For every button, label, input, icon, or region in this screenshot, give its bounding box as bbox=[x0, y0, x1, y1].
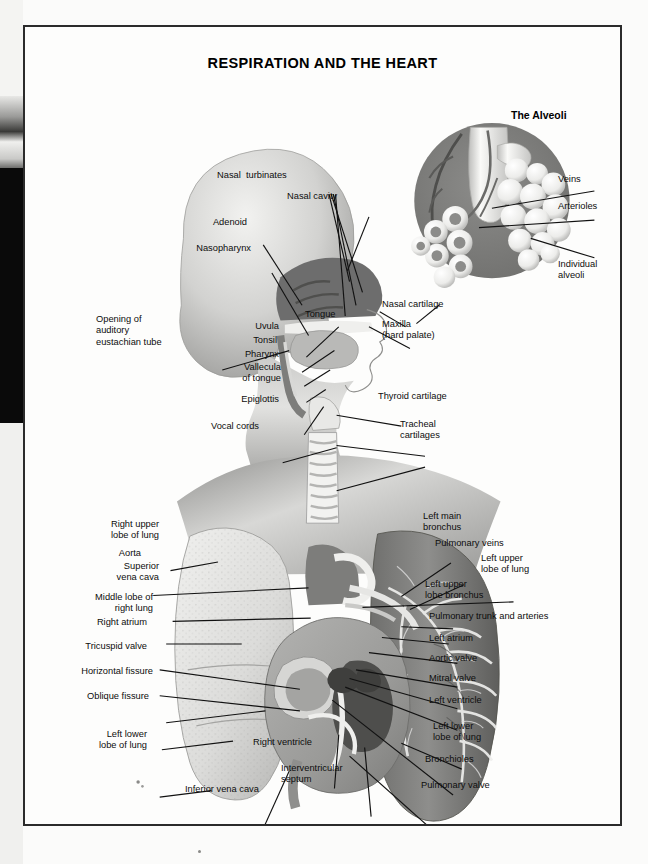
leader-lines bbox=[25, 27, 622, 826]
plate-frame: RESPIRATION AND THE HEART The Alveoli Ve… bbox=[23, 25, 622, 826]
label-nasal-cavity: Nasal cavity bbox=[287, 191, 337, 202]
label-individual-alveoli: Individual alveoli bbox=[558, 259, 597, 282]
inset-title: The Alveoli bbox=[511, 109, 567, 121]
label-tracheal-cartilages: Tracheal cartilages bbox=[400, 419, 440, 442]
label-uvula: Uvula bbox=[217, 321, 279, 332]
label-tricuspid-valve: Tricuspid valve bbox=[49, 641, 147, 652]
label-nasopharynx: Nasopharynx bbox=[175, 243, 251, 254]
label-adenoid: Adenoid bbox=[203, 217, 247, 228]
label-right-upper-lobe: Right upper lobe of lung bbox=[63, 519, 159, 542]
page-title: RESPIRATION AND THE HEART bbox=[25, 55, 620, 71]
label-left-upper-lobe-bronchus: Left upper lobe bronchus bbox=[425, 579, 483, 602]
label-epiglottis: Epiglottis bbox=[201, 394, 279, 405]
scan-edge-lower bbox=[0, 423, 23, 864]
label-maxilla: Maxilla (hard palate) bbox=[382, 319, 435, 342]
label-pulmonary-trunk: Pulmonary trunk and arteries bbox=[429, 611, 548, 622]
label-nasal-turbinates: Nasal turbinates bbox=[217, 170, 287, 181]
label-pulmonary-valve: Pulmonary valve bbox=[421, 780, 490, 791]
label-tonsil: Tonsil bbox=[211, 335, 277, 346]
label-pulmonary-veins: Pulmonary veins bbox=[435, 538, 504, 549]
label-left-upper-lobe: Left upper lobe of lung bbox=[481, 553, 529, 576]
label-inferior-vena-cava: Inferior vena cava bbox=[185, 784, 259, 795]
label-nasal-cartilage: Nasal cartilage bbox=[382, 299, 444, 310]
label-opening-auditory-tube: Opening of auditory eustachian tube bbox=[96, 314, 162, 348]
label-left-ventricle: Left ventricle bbox=[429, 695, 482, 706]
label-arterioles: Arterioles bbox=[558, 201, 597, 212]
label-thyroid-cartilage: Thyroid cartilage bbox=[378, 391, 447, 402]
label-middle-lobe: Middle lobe of right lung bbox=[61, 592, 153, 615]
scan-edge-gradient bbox=[0, 96, 23, 170]
page-root: RESPIRATION AND THE HEART The Alveoli Ve… bbox=[0, 0, 648, 864]
label-right-ventricle: Right ventricle bbox=[253, 737, 312, 748]
label-left-lower-lobe-left: Left lower lobe of lung bbox=[63, 729, 147, 752]
label-mitral-valve: Mitral valve bbox=[429, 673, 476, 684]
label-superior-vena-cava: Superior vena cava bbox=[77, 561, 159, 584]
label-interventricular-septum: Interventricular septum bbox=[281, 763, 343, 786]
label-oblique-fissure: Oblique fissure bbox=[47, 691, 149, 702]
label-pharynx: Pharynx bbox=[205, 349, 279, 360]
label-veins: Veins bbox=[558, 174, 581, 185]
label-aorta: Aorta bbox=[85, 548, 141, 559]
label-tongue: Tongue bbox=[305, 309, 336, 320]
plate-number: PLATE 5 bbox=[581, 822, 620, 826]
label-left-atrium: Left atrium bbox=[429, 633, 473, 644]
label-right-atrium: Right atrium bbox=[67, 617, 147, 628]
scan-edge-dark-band bbox=[0, 168, 23, 423]
label-left-lower-lobe-right: Left lower lobe of lung bbox=[433, 721, 481, 744]
label-vocal-cords: Vocal cords bbox=[177, 421, 259, 432]
label-horizontal-fissure: Horizontal fissure bbox=[39, 666, 153, 677]
label-left-main-bronchus: Left main bronchus bbox=[423, 511, 461, 534]
label-aortic-valve: Aortic valve bbox=[429, 653, 477, 664]
label-vallecula: Vallecula of tongue bbox=[201, 362, 281, 385]
scan-speck bbox=[198, 850, 201, 853]
label-bronchioles: Bronchioles bbox=[425, 754, 474, 765]
